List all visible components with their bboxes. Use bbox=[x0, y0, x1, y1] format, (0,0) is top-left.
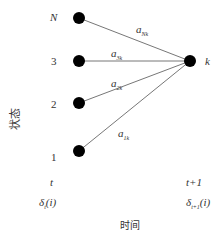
node-k bbox=[184, 55, 196, 67]
edge-N-k bbox=[79, 18, 190, 61]
edge-1-k bbox=[79, 61, 190, 151]
node-3 bbox=[73, 55, 85, 67]
state-label-k: k bbox=[205, 56, 210, 67]
edge-label-Nk: aNk bbox=[136, 24, 148, 37]
time-label-t: t bbox=[50, 177, 53, 188]
state-label-N: N bbox=[50, 12, 57, 23]
node-2 bbox=[73, 97, 85, 109]
time-label-t-plus-1: t+1 bbox=[186, 177, 202, 188]
state-label-1: 1 bbox=[51, 152, 57, 163]
state-label-3: 3 bbox=[51, 56, 57, 67]
edge-2-k bbox=[79, 61, 190, 103]
delta-t-plus-1: δt+1(i) bbox=[186, 197, 210, 210]
edge-label-3k: a3k bbox=[111, 48, 122, 61]
edge-label-2k: a2k bbox=[111, 78, 122, 91]
delta-t: δt(i) bbox=[39, 197, 56, 210]
node-N bbox=[73, 12, 85, 24]
x-axis-label: 时间 bbox=[120, 217, 140, 232]
state-label-2: 2 bbox=[51, 99, 57, 110]
y-axis-label: 状态 bbox=[6, 108, 22, 130]
node-1 bbox=[73, 145, 85, 157]
edge-label-1k: a1k bbox=[118, 128, 129, 141]
